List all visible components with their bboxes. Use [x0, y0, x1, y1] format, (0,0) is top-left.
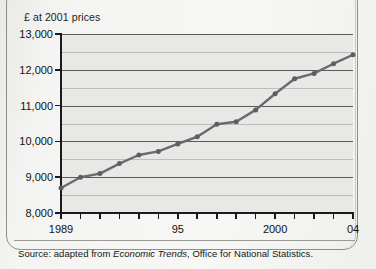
data-point-marker [156, 149, 161, 154]
source-publication: Economic Trends [113, 248, 187, 259]
source-prefix: Source: adapted from [18, 248, 113, 259]
x-tick-mark [294, 213, 296, 219]
x-tick-mark [235, 213, 237, 219]
data-point-marker [136, 153, 141, 158]
source-divider [14, 240, 355, 241]
data-point-marker [97, 171, 102, 176]
chart-axis-title: £ at 2001 prices [24, 11, 100, 23]
data-point-marker [253, 107, 258, 112]
data-point-marker [117, 161, 122, 166]
x-tick-mark [274, 213, 276, 219]
y-tick-label: 9,000 [25, 171, 53, 183]
x-tick-label: 95 [172, 223, 184, 235]
data-point-marker [78, 175, 83, 180]
data-series [61, 34, 353, 213]
figure-page: £ at 2001 prices 8,0009,00010,00011,0001… [0, 0, 376, 269]
x-tick-mark [352, 213, 354, 219]
x-tick-mark [60, 213, 62, 219]
x-tick-mark [80, 213, 82, 219]
data-point-marker [351, 52, 356, 57]
x-tick-mark [99, 213, 101, 219]
source-suffix: , Office for National Statistics. [187, 248, 313, 259]
x-tick-mark [119, 213, 121, 219]
plot-area: 8,0009,00010,00011,00012,00013,000 19899… [61, 34, 353, 213]
data-point-marker [175, 141, 180, 146]
x-tick-mark [333, 213, 335, 219]
x-tick-mark [216, 213, 218, 219]
data-point-marker [214, 122, 219, 127]
x-tick-mark [196, 213, 198, 219]
x-tick-label: 1989 [49, 223, 73, 235]
y-tick-label: 13,000 [19, 28, 53, 40]
line-chart: £ at 2001 prices 8,0009,00010,00011,0001… [0, 0, 376, 243]
y-tick-label: 8,000 [25, 207, 53, 219]
x-tick-label: 2000 [263, 223, 287, 235]
data-point-marker [312, 71, 317, 76]
series-line [61, 55, 353, 188]
data-point-marker [273, 91, 278, 96]
x-tick-mark [255, 213, 257, 219]
data-point-marker [59, 185, 64, 190]
x-tick-mark [313, 213, 315, 219]
data-point-marker [331, 61, 336, 66]
data-point-marker [195, 134, 200, 139]
x-tick-label: 04 [347, 223, 359, 235]
data-point-marker [292, 76, 297, 81]
y-tick-label: 12,000 [19, 64, 53, 76]
source-note: Source: adapted from Economic Trends, Of… [18, 248, 313, 259]
x-tick-mark [138, 213, 140, 219]
x-tick-mark [158, 213, 160, 219]
y-tick-label: 11,000 [20, 100, 53, 112]
data-point-marker [234, 119, 239, 124]
x-tick-mark [177, 213, 179, 219]
y-tick-label: 10,000 [19, 135, 53, 147]
